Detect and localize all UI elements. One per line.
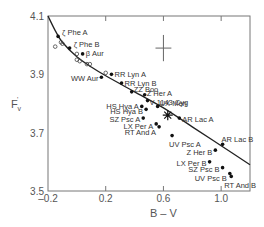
point-label: RR Lyn A [114,70,145,79]
data-point [100,75,104,79]
x-tick-label: 0.2 [99,193,113,204]
y-tick-label: 3.5 [30,186,44,197]
chart-svg: –0.20.20.61.03.53.73.94.1B – VFv'ζ Phe A… [0,0,264,227]
point-label: WW Aur [71,74,99,83]
point-label: RT And B [224,181,256,190]
point-label: SZ Psc B [188,165,219,174]
data-point [214,148,218,152]
data-point [154,122,158,126]
y-tick-label: 3.7 [30,128,44,139]
data-point [141,116,145,120]
y-tick-label: 4.1 [30,11,44,22]
plot-area: –0.20.20.61.03.53.73.94.1B – VFv'ζ Phe A… [11,11,256,219]
point-label: AR Lac A [182,115,213,124]
open-point [53,45,57,49]
point-label: Z Her B [187,148,213,157]
data-point [157,125,161,129]
x-tick-label: 0.6 [156,193,170,204]
data-point [178,116,182,120]
data-point [144,108,148,112]
point-label: UX Men [160,99,187,108]
point-label: Z Her A [147,89,172,98]
data-point [170,134,174,138]
point-label: ζ Phe B [74,40,100,49]
data-point [68,46,72,50]
data-point [221,166,225,170]
x-axis-title: B – V [150,207,178,219]
point-label: β Aur [86,49,105,58]
point-label: UV Psc B [195,174,227,183]
open-point [104,71,108,75]
point-label: ζ Phe A [62,28,87,37]
data-point [56,35,60,39]
data-point [208,160,212,164]
point-label: AR Lac B [222,135,254,144]
x-tick-label: 1.0 [214,193,228,204]
y-tick-label: 3.9 [30,69,44,80]
open-point [75,52,79,56]
point-label: RT And A [125,128,156,137]
sun-star-marker [163,110,173,120]
data-point [81,52,85,56]
data-point [229,175,233,179]
data-point [110,73,114,77]
y-axis-title: Fv' [11,96,22,112]
data-point [120,81,124,85]
